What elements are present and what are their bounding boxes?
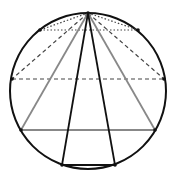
inscribed-triangles — [12, 13, 164, 165]
vertex-dot — [153, 128, 157, 132]
circle-diagram — [0, 0, 178, 184]
dashed-triangle — [12, 13, 164, 79]
apex-dot — [86, 11, 90, 15]
vertex-dot — [10, 77, 14, 81]
black-triangle — [62, 13, 115, 165]
triangle-edge — [40, 13, 88, 30]
outer-circle — [10, 13, 166, 169]
vertex-dot — [19, 128, 23, 132]
vertex-dot — [113, 163, 117, 167]
vertex-dot — [136, 28, 140, 32]
vertex-dot — [60, 163, 64, 167]
vertex-dot — [38, 28, 42, 32]
vertex-dot — [162, 77, 166, 81]
